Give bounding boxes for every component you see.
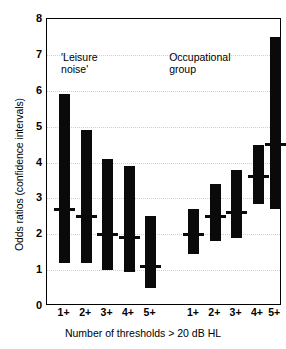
plot-inner: 'Leisure noise' Occupational group (47, 19, 280, 304)
y-tick-label: 8 (2, 12, 42, 24)
point-estimate-marker (205, 215, 226, 218)
confidence-interval-bar (253, 145, 264, 204)
gridline (47, 91, 280, 92)
confidence-interval-bar (210, 184, 221, 241)
confidence-interval-bar (231, 170, 242, 238)
gridline (47, 127, 280, 128)
point-estimate-marker (226, 211, 247, 214)
point-estimate-marker (76, 215, 97, 218)
annotation-occupational-group: Occupational group (169, 51, 230, 75)
point-estimate-marker (248, 175, 269, 178)
odds-ratio-chart: Odds ratios (confidence intervals) 01234… (0, 0, 286, 349)
plot-area: 'Leisure noise' Occupational group (46, 18, 281, 305)
confidence-interval-bar (81, 130, 92, 263)
confidence-interval-bar (145, 216, 156, 288)
y-tick-label: 6 (2, 84, 42, 96)
x-axis-ticks: 1+2+3+4+5+1+2+3+4+5+ (46, 306, 281, 324)
y-tick-label: 5 (2, 120, 42, 132)
confidence-interval-bar (124, 166, 135, 272)
point-estimate-marker (140, 265, 161, 268)
y-tick-label: 7 (2, 48, 42, 60)
point-estimate-marker (97, 233, 118, 236)
y-axis-ticks: 012345678 (0, 18, 42, 305)
y-tick-label: 2 (2, 227, 42, 239)
y-tick-label: 1 (2, 263, 42, 275)
annotation-leisure-noise: 'Leisure noise' (61, 51, 97, 75)
confidence-interval-bar (59, 94, 70, 263)
y-tick-label: 3 (2, 191, 42, 203)
point-estimate-marker (54, 208, 75, 211)
y-tick-label: 0 (2, 299, 42, 311)
y-tick-label: 4 (2, 156, 42, 168)
confidence-interval-bar (270, 37, 281, 209)
point-estimate-marker (265, 143, 286, 146)
x-axis-title: Number of thresholds > 20 dB HL (0, 327, 286, 339)
confidence-interval-bar (188, 209, 199, 254)
point-estimate-marker (183, 233, 204, 236)
x-tick-label: 5+ (259, 306, 286, 318)
gridline (47, 270, 280, 271)
x-tick-label: 5+ (135, 306, 165, 318)
point-estimate-marker (119, 236, 140, 239)
confidence-interval-bar (102, 159, 113, 270)
